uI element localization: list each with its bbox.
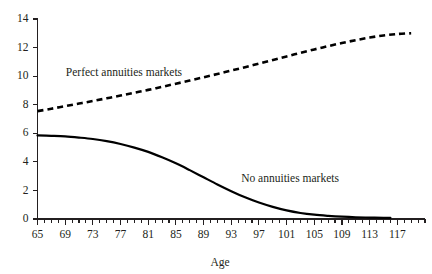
annuities-line-chart: 02468101214 6569737781858993971011051091…: [0, 0, 432, 274]
x-axis-tick-label: 89: [198, 228, 210, 240]
x-axis: 656973778185899397101105109113117: [32, 219, 425, 240]
x-axis-tick-label: 117: [389, 228, 406, 240]
y-axis-tick-label: 4: [23, 155, 29, 167]
x-axis-tick-label: 81: [142, 228, 154, 240]
x-axis-tick-label: 77: [115, 228, 127, 240]
x-axis-tick-label: 69: [59, 228, 71, 240]
x-axis-tick-label: 113: [361, 228, 378, 240]
x-axis-tick-label: 109: [333, 228, 351, 240]
series-annotation-1: No annuities markets: [241, 172, 339, 184]
y-axis-tick-label: 8: [23, 98, 29, 110]
y-axis-tick-label: 10: [17, 69, 29, 81]
x-axis-tick-label: 85: [170, 228, 182, 240]
data-series-group: [38, 33, 412, 218]
chart-container: 02468101214 6569737781858993971011051091…: [0, 0, 432, 274]
series-annotations: Perfect annuities marketsNo annuities ma…: [66, 66, 340, 184]
y-axis-tick-label: 12: [17, 41, 29, 53]
x-axis-title: Age: [210, 256, 229, 269]
series-annotation-0: Perfect annuities markets: [66, 66, 183, 78]
x-axis-tick-label: 97: [253, 228, 265, 240]
x-axis-tick-label: 105: [306, 228, 324, 240]
x-axis-tick-label: 101: [278, 228, 296, 240]
x-axis-tick-label: 73: [87, 228, 99, 240]
y-axis-tick-label: 0: [23, 212, 29, 224]
y-axis-tick-label: 6: [23, 126, 29, 138]
x-axis-tick-label: 65: [32, 228, 44, 240]
y-axis-tick-label: 14: [17, 12, 29, 24]
x-axis-tick-label: 93: [226, 228, 238, 240]
y-axis-tick-label: 2: [23, 184, 29, 196]
y-axis: 02468101214: [17, 12, 38, 224]
